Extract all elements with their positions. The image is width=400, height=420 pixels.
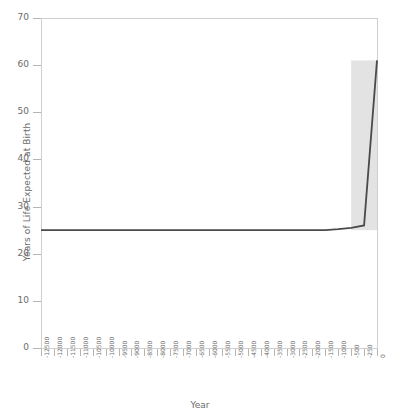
- x-axis-tick-label: -7500: [173, 341, 179, 358]
- y-axis-tick: [33, 65, 41, 66]
- x-axis-tick-label: -2000: [315, 341, 321, 358]
- x-axis-tick-label: -4000: [264, 341, 270, 358]
- y-axis-tick-label: 0: [3, 343, 29, 352]
- x-axis-tick: [235, 349, 236, 356]
- x-axis-tick-label: -7000: [186, 341, 192, 358]
- x-axis-tick: [248, 349, 249, 356]
- x-axis-tick: [222, 349, 223, 356]
- x-axis-tick: [338, 349, 339, 356]
- x-axis-tick-label: -4500: [251, 341, 257, 358]
- data-series-line: [41, 60, 377, 230]
- x-axis-tick: [351, 349, 352, 356]
- x-axis-tick-label: -1500: [328, 341, 334, 358]
- x-axis-tick-label: -10500: [96, 337, 102, 358]
- y-axis-tick-label: 60: [3, 60, 29, 69]
- x-axis-tick-label: -3500: [277, 341, 283, 358]
- y-axis-tick: [33, 18, 41, 19]
- x-axis-tick: [209, 349, 210, 356]
- x-axis-tick: [93, 349, 94, 356]
- x-axis-tick-label: -5500: [225, 341, 231, 358]
- x-axis-tick-label: -12500: [44, 337, 50, 358]
- y-axis-tick-label: 50: [3, 107, 29, 116]
- y-axis-tick: [33, 254, 41, 255]
- x-axis-tick: [170, 349, 171, 356]
- plot-data-layer: [41, 18, 378, 349]
- x-axis-title: Year: [0, 400, 400, 410]
- x-axis-tick-label: -8500: [147, 341, 153, 358]
- life-expectancy-line-chart: Years of Life Expected at Birth 01020304…: [0, 0, 400, 420]
- y-axis-tick: [33, 301, 41, 302]
- x-axis-tick-label: -3000: [290, 341, 296, 358]
- x-axis-tick: [119, 349, 120, 356]
- x-axis-tick: [325, 349, 326, 356]
- x-axis-tick: [377, 349, 378, 356]
- x-axis-tick: [312, 349, 313, 356]
- y-axis-title: Years of Life Expected at Birth: [22, 92, 32, 292]
- series-canvas: [41, 18, 378, 349]
- x-axis-tick: [106, 349, 107, 356]
- x-axis-tick-label: -6000: [212, 341, 218, 358]
- x-axis-tick: [183, 349, 184, 356]
- y-axis-tick-label: 40: [3, 154, 29, 163]
- x-axis-tick: [144, 349, 145, 356]
- x-axis-tick: [67, 349, 68, 356]
- y-axis-tick-label: 10: [3, 296, 29, 305]
- x-axis-tick: [299, 349, 300, 356]
- x-axis-tick: [196, 349, 197, 356]
- x-axis-tick: [157, 349, 158, 356]
- x-axis-tick: [274, 349, 275, 356]
- x-axis-tick-label: -5000: [238, 341, 244, 358]
- x-axis-tick-label: -500: [354, 344, 360, 358]
- x-axis-tick-label: -12000: [57, 337, 63, 358]
- x-axis-tick-label: -10000: [109, 337, 115, 358]
- x-axis-tick: [261, 349, 262, 356]
- x-axis-tick: [287, 349, 288, 356]
- uncertainty-band: [351, 60, 377, 230]
- y-axis-tick: [33, 348, 41, 349]
- x-axis-tick: [364, 349, 365, 356]
- x-axis-tick-label: -6500: [199, 341, 205, 358]
- x-axis-tick-label: -9500: [122, 341, 128, 358]
- x-axis-tick-label: -11500: [70, 337, 76, 358]
- x-axis-tick-label: 0: [380, 354, 386, 358]
- x-axis-tick: [131, 349, 132, 356]
- y-axis-tick-label: 70: [3, 13, 29, 22]
- x-axis-tick-label: -2500: [302, 341, 308, 358]
- y-axis-tick: [33, 112, 41, 113]
- x-axis-tick: [41, 349, 42, 356]
- y-axis-tick: [33, 207, 41, 208]
- y-axis-tick-label: 30: [3, 202, 29, 211]
- y-axis-tick: [33, 159, 41, 160]
- x-axis-tick-label: -9000: [134, 341, 140, 358]
- x-axis-tick-label: -11000: [83, 337, 89, 358]
- x-axis-tick-label: -1000: [341, 341, 347, 358]
- x-axis-tick: [80, 349, 81, 356]
- x-axis-tick-label: -250: [367, 344, 373, 358]
- x-axis-tick: [54, 349, 55, 356]
- y-axis-tick-label: 20: [3, 249, 29, 258]
- x-axis-tick-label: -8000: [160, 341, 166, 358]
